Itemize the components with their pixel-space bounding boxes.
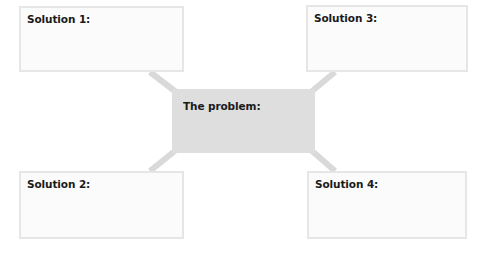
problem-label: The problem: — [183, 100, 261, 112]
solution-1-label: Solution 1: — [27, 13, 90, 25]
solution-3-label: Solution 3: — [314, 12, 377, 24]
solution-2-label: Solution 2: — [27, 178, 90, 190]
solution-4-box[interactable]: Solution 4: — [307, 171, 467, 239]
problem-box[interactable]: The problem: — [172, 89, 315, 153]
connector-solution-4 — [311, 150, 335, 171]
solution-4-label: Solution 4: — [315, 178, 378, 190]
connector-solution-2 — [150, 150, 176, 171]
solution-3-box[interactable]: Solution 3: — [306, 5, 468, 72]
solution-1-box[interactable]: Solution 1: — [19, 6, 184, 72]
solution-2-box[interactable]: Solution 2: — [19, 171, 184, 239]
